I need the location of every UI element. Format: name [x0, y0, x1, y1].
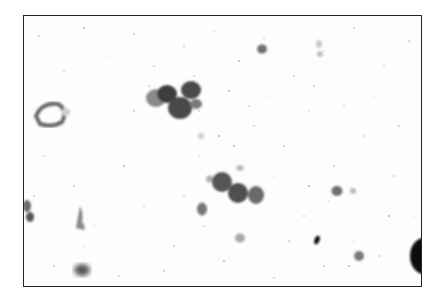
micrograph-image — [24, 16, 421, 286]
cell-cluster-upper — [146, 81, 202, 119]
cell-blurred — [74, 264, 90, 276]
micrograph-frame — [23, 15, 422, 287]
single-nuclei — [24, 29, 364, 261]
background-speckles — [33, 27, 414, 279]
cell-cluster-middle — [206, 165, 264, 204]
cell-left-ring — [36, 104, 70, 126]
dark-object-edge — [410, 238, 421, 274]
